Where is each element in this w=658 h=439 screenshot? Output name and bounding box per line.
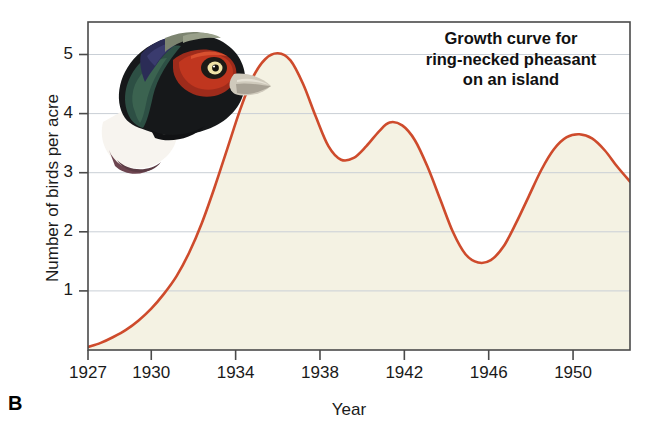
x-tick-label-1942: 1942 bbox=[374, 363, 434, 383]
x-tick-label-1950: 1950 bbox=[543, 363, 603, 383]
chart-title-line-2: ring-necked pheasant bbox=[396, 49, 626, 70]
x-tick-label-1927: 1927 bbox=[58, 363, 118, 383]
y-axis-ticks bbox=[79, 55, 88, 291]
y-tick-label-5: 5 bbox=[33, 44, 73, 64]
chart-title-line-1: Growth curve for bbox=[396, 28, 626, 49]
x-tick-label-1946: 1946 bbox=[459, 363, 519, 383]
figure-panel-b: Growth curve for ring-necked pheasant on… bbox=[0, 0, 658, 439]
y-tick-label-2: 2 bbox=[33, 221, 73, 241]
chart-title-annotation: Growth curve for ring-necked pheasant on… bbox=[396, 28, 626, 90]
x-axis-title-text: Year bbox=[332, 400, 366, 420]
y-tick-label-1: 1 bbox=[33, 280, 73, 300]
x-tick-label-1930: 1930 bbox=[121, 363, 181, 383]
panel-letter: B bbox=[8, 392, 22, 415]
chart-title-line-3: on an island bbox=[396, 69, 626, 90]
y-tick-label-4: 4 bbox=[33, 103, 73, 123]
x-axis-title: Year bbox=[0, 400, 658, 420]
x-axis-ticks bbox=[88, 350, 573, 360]
y-tick-label-3: 3 bbox=[33, 162, 73, 182]
x-tick-label-1938: 1938 bbox=[290, 363, 350, 383]
x-tick-label-1934: 1934 bbox=[206, 363, 266, 383]
